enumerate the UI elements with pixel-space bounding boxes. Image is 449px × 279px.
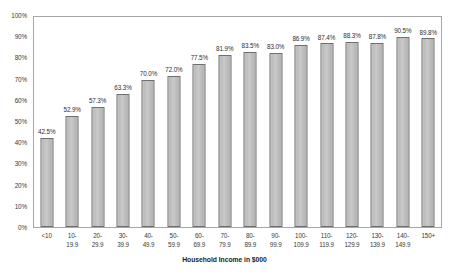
x-axis-tick-label: 70-79.9 [212,232,237,249]
x-axis-tick-label: 140-149.9 [390,232,415,249]
bar-value-label: 52.9% [63,107,80,113]
x-axis-tick-line: 130- [365,232,390,241]
bar-value-label: 83.0% [267,44,284,50]
x-axis-title: Household Income in $000 [0,256,449,263]
bar-value-label: 90.5% [394,28,411,34]
x-axis-tick-line: 29.9 [85,241,110,250]
bar-group: 42.5% [34,17,59,227]
bar [66,116,79,227]
y-axis-tick-label: 40% [15,140,27,146]
y-axis-tick-label: 70% [15,76,27,82]
x-axis-tick-line: 110- [314,232,339,241]
x-axis-tick-line: 70- [212,232,237,241]
y-axis-tick-label: 60% [15,98,27,104]
x-axis-tick-line: 20- [85,232,110,241]
x-axis-tick-label: 20-29.9 [85,232,110,249]
bar-group: 83.5% [238,17,263,227]
x-axis-tick-line: 80- [238,232,263,241]
x-axis-tick-label: 80-89.9 [238,232,263,249]
x-axis-tick-label: 50-59.9 [161,232,186,249]
x-axis-tick-label: 30-39.9 [110,232,135,249]
x-axis-tick-line: 150+ [416,232,441,241]
x-axis-tick-line: 139.9 [365,241,390,250]
y-axis: 100%90%80%70%60%50%40%30%20%10%0% [0,16,30,228]
bar-value-label: 88.3% [343,33,360,39]
x-axis-tick-label: 120-129.9 [339,232,364,249]
bar [269,53,282,227]
x-axis-tick-line: 119.9 [314,241,339,250]
bar-group: 70.0% [136,17,161,227]
y-axis-tick-label: 20% [15,182,27,188]
x-axis: <1010-19.920-29.930-39.940-49.950-59.960… [34,232,441,256]
bar [345,42,358,227]
x-axis-tick-line: 79.9 [212,241,237,250]
bar [218,55,231,227]
bar-group: 86.9% [288,17,313,227]
bar-value-label: 89.8% [420,30,437,36]
x-axis-tick-line: 149.9 [390,241,415,250]
bar [40,138,53,227]
x-axis-tick-line: 50- [161,232,186,241]
bar-group: 90.5% [390,17,415,227]
bar [244,52,257,227]
bar-value-label: 83.5% [242,43,259,49]
bar-group: 57.3% [85,17,110,227]
bar-value-label: 81.9% [216,46,233,52]
bar-value-label: 86.9% [292,36,309,42]
x-axis-tick-line: 30- [110,232,135,241]
bar-value-label: 42.5% [38,129,55,135]
x-axis-tick-label: 40-49.9 [136,232,161,249]
x-axis-tick-line: 90- [263,232,288,241]
bar-group: 52.9% [59,17,84,227]
x-axis-tick-line: 109.9 [288,241,313,250]
x-axis-tick-line: 60- [187,232,212,241]
bar-group: 72.0% [161,17,186,227]
bar [396,37,409,227]
x-axis-tick-line: 140- [390,232,415,241]
x-axis-tick-line: 99.9 [263,241,288,250]
bar-group: 87.4% [314,17,339,227]
bar-group: 63.3% [110,17,135,227]
x-axis-tick-line: 19.9 [59,241,84,250]
bar-value-label: 57.3% [89,98,106,104]
x-axis-tick-label: 150+ [416,232,441,241]
bar-value-label: 87.4% [318,35,335,41]
x-axis-tick-line: 40- [136,232,161,241]
y-axis-tick-label: 10% [15,204,27,210]
y-axis-tick-label: 30% [15,161,27,167]
bars-layer: 42.5%52.9%57.3%63.3%70.0%72.0%77.5%81.9%… [34,17,441,227]
bar [295,45,308,227]
y-axis-tick-label: 100% [11,13,27,19]
bar [193,64,206,227]
x-axis-tick-label: 60-69.9 [187,232,212,249]
bar [422,38,435,227]
bar-group: 83.0% [263,17,288,227]
x-axis-tick-label: 100-109.9 [288,232,313,249]
bar-group: 77.5% [187,17,212,227]
x-axis-tick-line: 49.9 [136,241,161,250]
bar [371,43,384,227]
bar-value-label: 72.0% [165,67,182,73]
bar-value-label: 77.5% [191,55,208,61]
x-axis-tick-label: 90-99.9 [263,232,288,249]
bar [117,94,130,227]
y-axis-tick-label: 80% [15,55,27,61]
x-axis-tick-line: 59.9 [161,241,186,250]
bar-group: 88.3% [339,17,364,227]
bar-group: 81.9% [212,17,237,227]
y-axis-tick-label: 90% [15,34,27,40]
bar-group: 87.8% [365,17,390,227]
x-axis-tick-line: 120- [339,232,364,241]
bar-group: 89.8% [416,17,441,227]
bar [142,80,155,227]
bar-value-label: 70.0% [140,71,157,77]
bar [320,43,333,227]
y-axis-tick-label: 50% [15,119,27,125]
bar-value-label: 63.3% [114,85,131,91]
bar [167,76,180,227]
bar-chart: 100%90%80%70%60%50%40%30%20%10%0% 42.5%5… [0,0,449,279]
x-axis-tick-label: 130-139.9 [365,232,390,249]
x-axis-tick-label: 10-19.9 [59,232,84,249]
x-axis-tick-line: 39.9 [110,241,135,250]
x-axis-tick-label: 110-119.9 [314,232,339,249]
